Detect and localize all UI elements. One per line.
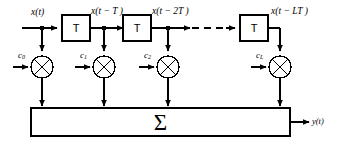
output-label-text: y(t) — [312, 116, 324, 126]
delay-block-L-label: T — [240, 15, 268, 41]
coefficient-label-L-text: cL — [256, 50, 263, 60]
coefficient-label-0-text: c0 — [18, 50, 25, 60]
delay-block-1-label: T — [62, 15, 90, 41]
coefficient-label-0: c0 — [18, 51, 25, 60]
tap-label-1: x(t − T ) — [91, 7, 123, 17]
input-label-text: x(t) — [31, 7, 44, 17]
coefficient-label-2-text: c2 — [144, 50, 151, 60]
coefficient-label-2: c2 — [144, 51, 151, 60]
coefficient-label-1-text: c1 — [80, 50, 87, 60]
delay-block-2-label: T — [123, 15, 151, 41]
input-label: x(t) — [31, 8, 44, 18]
delay-block-L-label-text: T — [251, 23, 258, 34]
tap-label-2: x(t − 2T ) — [152, 7, 189, 17]
coefficient-label-L: cL — [256, 51, 263, 60]
delay-block-2-label-text: T — [134, 23, 141, 34]
delay-block-1-label-text: T — [73, 23, 80, 34]
tap-label-2-text: x(t − 2T ) — [152, 6, 189, 16]
output-label: y(t) — [312, 117, 324, 126]
summation-symbol-text: Σ — [154, 111, 167, 134]
tap-label-L: x(t − LT ) — [271, 7, 308, 17]
coefficient-label-1: c1 — [80, 51, 87, 60]
summation-symbol: Σ — [31, 108, 290, 136]
diagram-canvas: x(t) x(t − T ) x(t − 2T ) x(t − LT ) T T… — [0, 0, 338, 143]
tap-label-1-text: x(t − T ) — [91, 6, 123, 16]
tap-label-L-text: x(t − LT ) — [271, 6, 308, 16]
